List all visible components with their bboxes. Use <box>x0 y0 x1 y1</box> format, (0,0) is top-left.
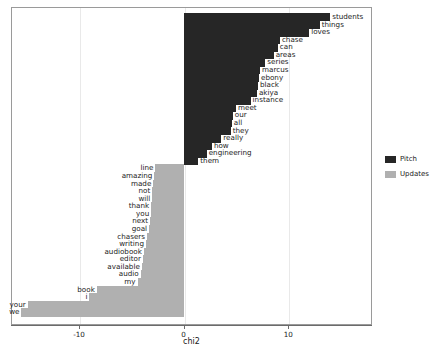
x-tick <box>288 325 289 329</box>
x-axis-label: chi2 <box>11 337 372 346</box>
x-tick <box>184 325 185 329</box>
bar[interactable] <box>21 308 183 316</box>
legend-label: Pitch <box>400 155 417 163</box>
legend-swatch-icon <box>385 171 396 178</box>
legend-item-updates[interactable]: Updates <box>385 170 429 178</box>
legend-label: Updates <box>400 170 429 178</box>
x-tick <box>79 325 80 329</box>
bar-label: we <box>9 308 19 316</box>
bars-layer: studentsthingsloveschasecanareasseriesma… <box>11 7 372 325</box>
legend-item-pitch[interactable]: Pitch <box>385 155 429 163</box>
legend: PitchUpdates <box>385 155 429 185</box>
chart-container: studentsthingsloveschasecanareasseriesma… <box>0 0 430 354</box>
legend-swatch-icon <box>385 156 396 163</box>
bar-row: we <box>11 308 372 316</box>
